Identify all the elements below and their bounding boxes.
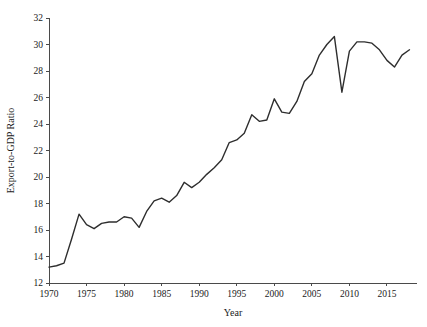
y-axis-title: Export-to-GDP Ratio [5,108,16,193]
chart-container: 1214161820222426283032 19701975198019851… [0,0,427,327]
y-tick-label: 32 [34,13,44,23]
x-tick-label: 1975 [77,289,96,299]
x-axis-title: Year [224,307,243,318]
y-tick-label: 28 [34,66,44,76]
y-tick-label: 26 [34,93,44,103]
x-tick-label: 1995 [227,289,246,299]
y-tick-label: 30 [34,40,44,50]
x-axis-ticks: 1970197519801985199019952000200520102015 [40,283,397,299]
y-tick-label: 24 [34,119,44,129]
y-tick-label: 12 [34,278,44,288]
x-tick-label: 1990 [190,289,209,299]
x-tick-label: 1970 [40,289,59,299]
y-tick-label: 14 [34,252,44,262]
x-tick-label: 2005 [302,289,321,299]
y-tick-label: 16 [34,225,44,235]
y-axis-ticks: 1214161820222426283032 [34,13,50,288]
y-tick-label: 18 [34,199,44,209]
y-tick-label: 20 [34,172,44,182]
x-tick-label: 2010 [340,289,359,299]
line-chart: 1214161820222426283032 19701975198019851… [0,0,427,327]
x-tick-label: 1985 [152,289,171,299]
x-tick-label: 2000 [265,289,284,299]
x-tick-label: 1980 [115,289,134,299]
data-series-line [49,37,409,268]
y-tick-label: 22 [34,146,44,156]
x-tick-label: 2015 [377,289,396,299]
